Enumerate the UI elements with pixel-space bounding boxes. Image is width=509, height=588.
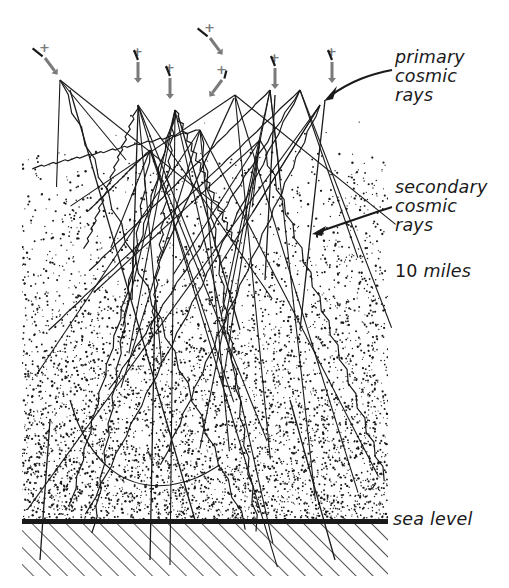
svg-text:+: +	[204, 20, 215, 35]
ground-hatching	[22, 524, 388, 576]
sea-level-label: sea level	[393, 510, 473, 529]
sea-level-line	[22, 519, 388, 524]
primary-pointer-arrow	[330, 70, 392, 96]
primary-cosmic-rays-label: primary cosmic rays	[395, 48, 465, 105]
altitude-label: 10 miles	[395, 262, 471, 281]
altitude-value: 10	[395, 261, 418, 281]
secondary-pointer-arrow	[318, 207, 392, 232]
cosmic-ray-diagram: +++++++ primary cosmic rays secondary co…	[0, 0, 509, 588]
secondary-pointer-arrowhead	[312, 226, 326, 236]
svg-text:+: +	[39, 40, 50, 55]
secondary-cosmic-rays-label: secondary cosmic rays	[395, 178, 488, 235]
altitude-unit: miles	[423, 261, 471, 281]
primary-ray-markers: +++++++	[33, 20, 337, 99]
